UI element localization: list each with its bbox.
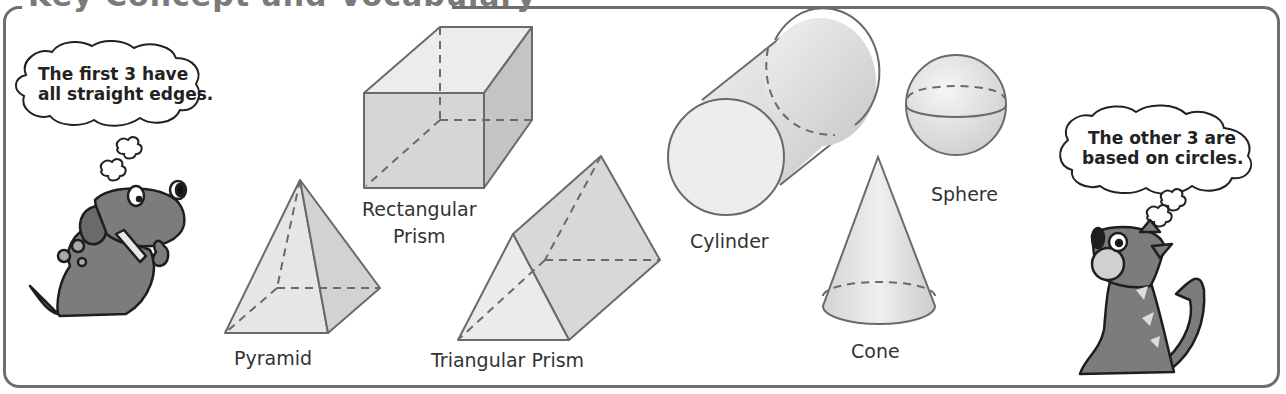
dog-speech-line-1: The first 3 have — [38, 64, 188, 84]
cylinder-shape — [668, 8, 879, 215]
sphere-label: Sphere — [931, 183, 998, 205]
cone-shape — [823, 157, 935, 324]
triangular-prism-label: Triangular Prism — [431, 349, 584, 371]
pyramid-shape — [225, 180, 380, 333]
cylinder-label: Cylinder — [690, 230, 769, 252]
cat-speech-text: The other 3 are based on circles. — [1082, 128, 1242, 168]
cat-speech-line-1: The other 3 are — [1082, 128, 1242, 148]
dog-speech-line-2: all straight edges. — [38, 84, 188, 104]
pyramid-label: Pyramid — [234, 347, 312, 369]
sphere-shape — [906, 55, 1006, 155]
cat-speech-line-2: based on circles. — [1082, 148, 1242, 168]
illustration — [0, 0, 1286, 394]
cat-character — [1080, 220, 1204, 374]
rectangular-prism-shape — [364, 27, 532, 188]
dog-speech-bubble — [16, 41, 199, 181]
rectangular-prism-label-line-2: Prism — [393, 225, 446, 247]
dog-speech-text: The first 3 have all straight edges. — [38, 64, 188, 104]
rectangular-prism-label-line-1: Rectangular — [362, 198, 476, 220]
cone-label: Cone — [851, 340, 900, 362]
dog-character — [30, 181, 186, 316]
